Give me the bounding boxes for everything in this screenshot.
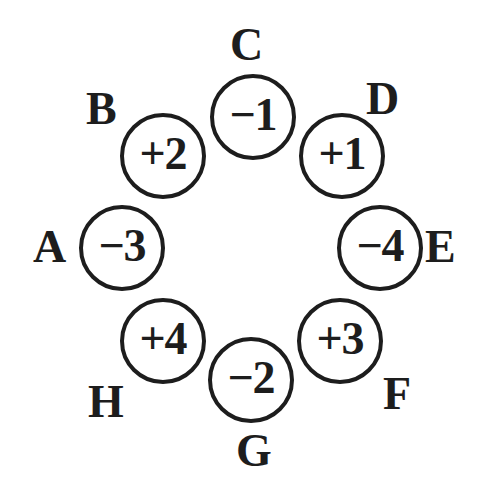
node-label-d: D (366, 76, 399, 122)
node-label-f: F (383, 371, 411, 417)
node-label-b: B (86, 86, 117, 132)
node-label-e: E (425, 224, 456, 270)
circular-node-diagram: −3 A +2 B −1 C +1 D −4 E +3 F −2 G +4 H (0, 0, 489, 490)
node-circle-h[interactable]: +4 (120, 298, 206, 384)
node-circle-a[interactable]: −3 (79, 205, 165, 291)
node-value-h: +4 (139, 316, 186, 362)
node-circle-b[interactable]: +2 (120, 113, 206, 199)
node-circle-d[interactable]: +1 (299, 113, 385, 199)
node-label-g: G (236, 428, 272, 474)
node-circle-f[interactable]: +3 (297, 298, 383, 384)
node-circle-e[interactable]: −4 (337, 205, 423, 291)
node-value-f: +3 (316, 316, 363, 362)
node-label-h: H (88, 379, 124, 425)
node-value-b: +2 (139, 131, 186, 177)
node-value-a: −3 (98, 223, 145, 269)
node-circle-c[interactable]: −1 (210, 74, 296, 160)
node-label-a: A (33, 224, 66, 270)
node-circle-g[interactable]: −2 (208, 337, 294, 423)
node-value-d: +1 (318, 131, 365, 177)
node-value-c: −1 (229, 92, 276, 138)
node-label-c: C (230, 22, 263, 68)
node-value-g: −2 (227, 355, 274, 401)
node-value-e: −4 (356, 223, 403, 269)
